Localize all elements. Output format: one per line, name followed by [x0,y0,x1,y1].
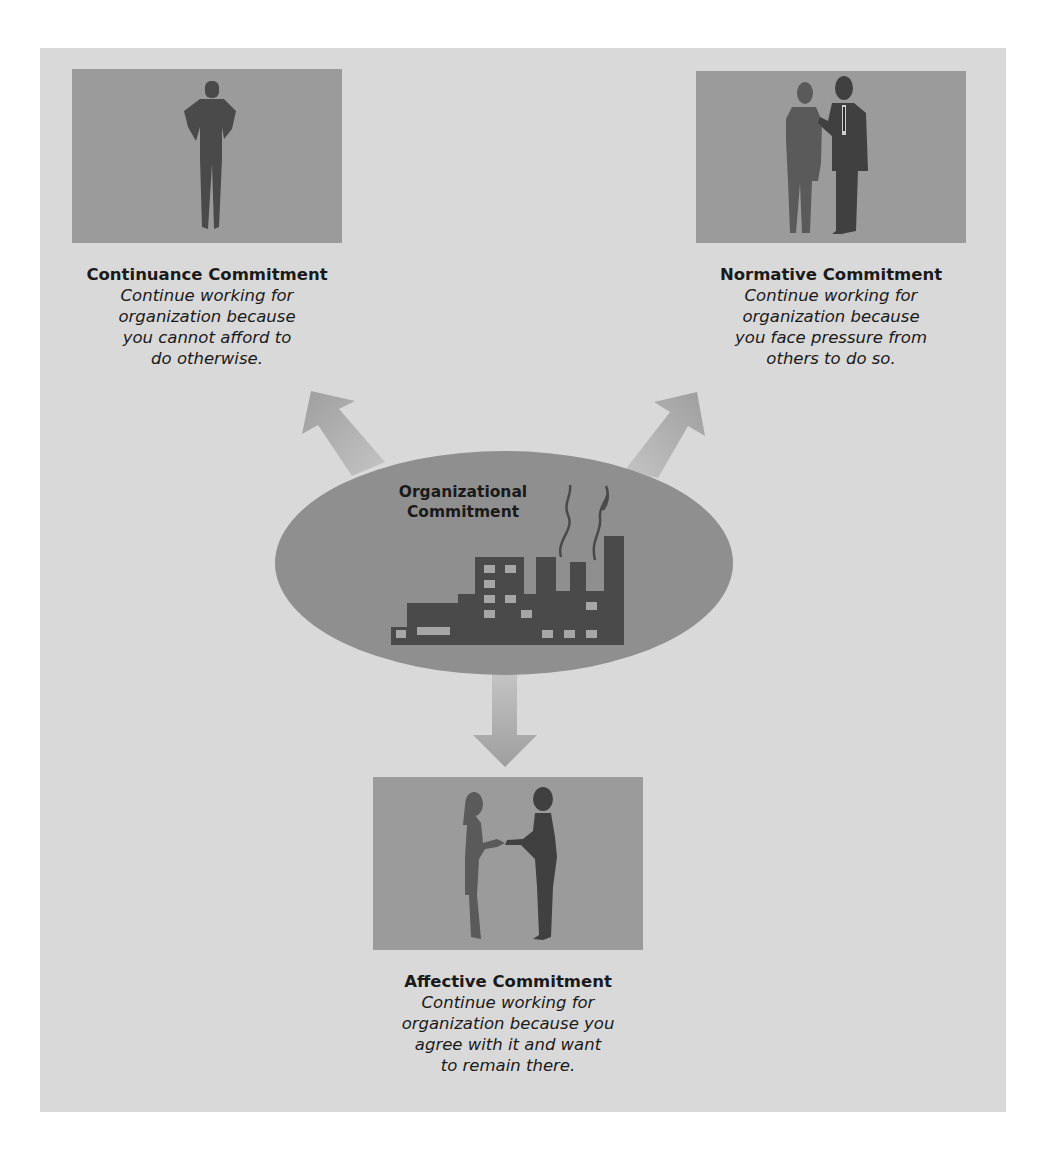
affective-caption: Affective Commitment Continue working fo… [373,971,643,1076]
affective-photo [373,777,643,950]
normative-description: Continue working for organization becaus… [696,285,966,369]
arrow-to-continuance-icon [302,391,385,476]
continuance-photo [72,69,342,243]
continuance-caption: Continuance Commitment Continue working … [72,264,342,369]
affective-description: Continue working for organization becaus… [373,992,643,1076]
two-women-handshake-silhouette-icon [373,777,643,950]
arrow-to-affective-icon [473,672,537,767]
center-label: Organizational Commitment [383,482,543,522]
arrow-to-normative-icon [625,392,705,478]
normative-title: Normative Commitment [696,264,966,285]
continuance-title: Continuance Commitment [72,264,342,285]
standing-person-silhouette-icon [72,69,342,243]
continuance-description: Continue working for organization becaus… [72,285,342,369]
man-and-woman-silhouette-icon [696,71,966,243]
normative-photo [696,71,966,243]
affective-title: Affective Commitment [373,971,643,992]
normative-caption: Normative Commitment Continue working fo… [696,264,966,369]
